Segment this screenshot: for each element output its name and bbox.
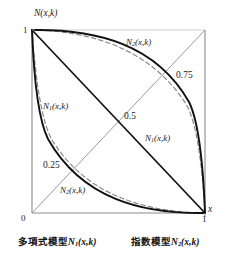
curve-label-bottom-args: (x,k) <box>69 185 85 195</box>
curve-label-top-args: (x,k) <box>135 37 151 47</box>
caption-right: 指数模型N2(x,k) <box>131 234 199 248</box>
plot-svg <box>0 0 230 258</box>
value-label-025: 0.25 <box>43 161 60 171</box>
caption-left-args: (x,k) <box>78 237 96 247</box>
caption-left-text: 多項式模型 <box>18 236 68 247</box>
y-tick-label-1: 1 <box>23 26 28 35</box>
figure-container: N(x,k) x 1 0 1 0.75 0.5 0.25 N2(x,k) N1(… <box>0 0 230 258</box>
caption-right-args: (x,k) <box>181 237 199 247</box>
y-axis-label: N(x,k) <box>34 9 57 19</box>
caption-left: 多項式模型N1(x,k) <box>18 234 96 248</box>
caption-left-base: N <box>68 237 75 247</box>
curve-label-bottom: N2(x,k) <box>60 186 85 195</box>
curve-label-right-args: (x,k) <box>154 133 170 143</box>
caption-right-base: N <box>171 237 178 247</box>
curve-label-top: N2(x,k) <box>126 38 151 47</box>
curve-label-right: N1(x,k) <box>145 134 170 143</box>
x-axis-label: x <box>208 205 212 215</box>
value-label-05: 0.5 <box>124 112 136 122</box>
origin-label: 0 <box>21 214 26 223</box>
curve-label-left-args: (x,k) <box>52 101 68 111</box>
x-tick-label-1: 1 <box>202 215 207 224</box>
caption-right-text: 指数模型 <box>131 236 171 247</box>
curve-label-left: N1(x,k) <box>43 102 68 111</box>
value-label-075: 0.75 <box>176 71 193 81</box>
